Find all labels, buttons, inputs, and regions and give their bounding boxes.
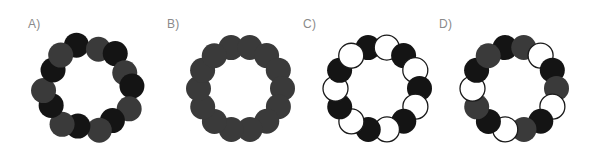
panel-d: D)	[450, 0, 598, 159]
ring-b-svg	[182, 30, 299, 147]
figure-canvas: A) B) C) D)	[0, 0, 598, 159]
panel-c-label: C)	[303, 17, 316, 31]
ring-c-svg	[319, 30, 436, 147]
panel-b: B)	[150, 0, 300, 159]
ring-node	[338, 43, 363, 68]
ring-a	[30, 30, 147, 147]
ring-a-svg	[30, 30, 147, 147]
ring-node	[475, 43, 500, 68]
ring-node	[119, 73, 144, 98]
ring-node	[48, 42, 73, 67]
panel-a: A)	[0, 0, 150, 159]
ring-c	[319, 30, 436, 147]
ring-d	[456, 30, 573, 147]
ring-d-svg	[456, 30, 573, 147]
ring-b	[182, 30, 299, 147]
panel-b-label: B)	[167, 17, 180, 31]
panel-c: C)	[300, 0, 450, 159]
ring-node	[201, 43, 226, 68]
panel-d-label: D)	[439, 17, 452, 31]
ring-node	[86, 117, 111, 142]
